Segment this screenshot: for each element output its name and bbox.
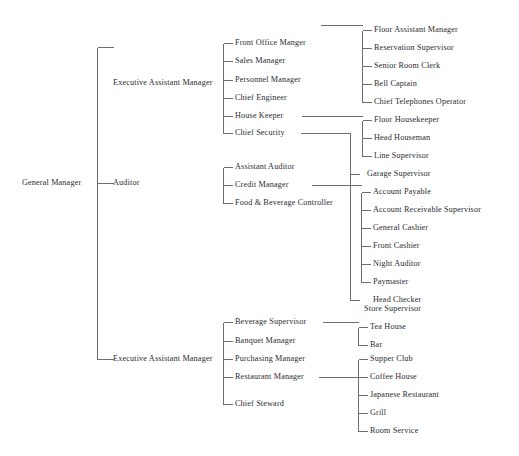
node-bar[interactable]: Bar — [370, 341, 382, 349]
node-personnel-manager[interactable]: Personnel Manager — [235, 76, 301, 84]
node-sales-manager[interactable]: Sales Manager — [235, 57, 285, 65]
node-restaurant-manager[interactable]: Restaurant Manager — [235, 373, 304, 381]
node-floor-assistant-manager[interactable]: Floor Assistant Manager — [374, 26, 458, 34]
org-chart: General Manager Executive Assistant Mana… — [0, 0, 519, 456]
node-room-service[interactable]: Room Service — [370, 427, 418, 435]
node-front-cashier[interactable]: Front Cashier — [373, 242, 420, 250]
node-head-checker[interactable]: Head Checker — [373, 296, 421, 304]
node-chief-steward[interactable]: Chief Steward — [235, 400, 284, 408]
node-chief-telephones-operator[interactable]: Chief Telephones Operator — [374, 98, 466, 106]
node-line-supervisor[interactable]: Line Supervisor — [374, 152, 429, 160]
node-supper-club[interactable]: Supper Club — [370, 355, 413, 363]
node-floor-housekeeper[interactable]: Floor Housekeeper — [374, 116, 439, 124]
node-purchasing-manager[interactable]: Purchasing Manager — [235, 355, 305, 363]
node-auditor[interactable]: Auditor — [113, 179, 140, 187]
node-coffee-house[interactable]: Coffee House — [370, 373, 417, 381]
node-reservation-supervisor[interactable]: Reservation Supervisor — [374, 44, 454, 52]
node-store-supervisor[interactable]: Store Supervisor — [364, 305, 421, 313]
node-account-receivable-supervisor[interactable]: Account Receivable Supervisor — [373, 206, 481, 214]
node-garage-supervisor[interactable]: Garage Supervisor — [367, 170, 431, 178]
node-japanese-restaurant[interactable]: Japanese Restaurant — [370, 391, 439, 399]
node-assistant-auditor[interactable]: Assistant Auditor — [235, 163, 295, 171]
connector-lines — [0, 0, 519, 456]
node-house-keeper[interactable]: House Keeper — [235, 112, 283, 120]
node-general-manager[interactable]: General Manager — [22, 179, 81, 187]
node-banquet-manager[interactable]: Banquet Manager — [235, 337, 296, 345]
node-paymaster[interactable]: Paymaster — [373, 278, 408, 286]
node-front-office-manger[interactable]: Front Office Manger — [235, 39, 306, 47]
node-senior-room-clerk[interactable]: Senior Room Clerk — [374, 62, 440, 70]
node-chief-engineer[interactable]: Chief Engineer — [235, 94, 287, 102]
node-executive-assistant-manager-top[interactable]: Executive Assistant Manager — [113, 79, 213, 87]
node-beverage-supervisor[interactable]: Beverage Supervisor — [235, 318, 306, 326]
node-bell-captain[interactable]: Bell Captain — [374, 80, 417, 88]
node-credit-manager[interactable]: Credit Manager — [235, 181, 289, 189]
node-food-beverage-controller[interactable]: Food & Beverage Controller — [235, 199, 333, 207]
node-night-auditor[interactable]: Night Auditor — [373, 260, 421, 268]
node-head-houseman[interactable]: Head Houseman — [374, 134, 430, 142]
node-tea-house[interactable]: Tea House — [370, 323, 406, 331]
node-chief-security[interactable]: Chief Security — [235, 129, 285, 137]
node-account-payable[interactable]: Account Payable — [373, 188, 431, 196]
node-executive-assistant-manager-bottom[interactable]: Executive Assistant Manager — [113, 355, 213, 363]
node-grill[interactable]: Grill — [370, 409, 386, 417]
node-general-cashier[interactable]: General Cashier — [373, 224, 428, 232]
